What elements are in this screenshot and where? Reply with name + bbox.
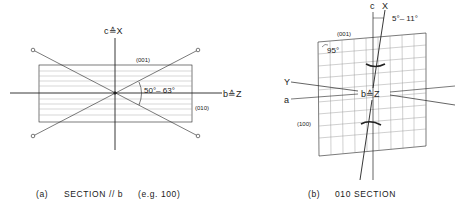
panel-b-y-axis-right [390, 95, 455, 105]
panel-a-drawing [10, 38, 222, 150]
panel-b-caption-text: 010 SECTION [335, 189, 396, 199]
panel-b-grid-angle-label: 95° [327, 46, 339, 55]
panel-a-plane-001-label: (001) [136, 57, 150, 63]
panel-a-endpoint [31, 48, 35, 52]
panel-b-upper-arc [366, 64, 385, 67]
panel-b-tilt-angle-label: 5°– 11° [392, 14, 418, 23]
panel-a-endpoint [196, 134, 200, 138]
panel-b-x-axis-lower [360, 100, 372, 180]
panel-b-plane-100-label: (100) [297, 121, 311, 127]
panel-a-angle-arc [139, 82, 142, 105]
panel-a-endpoint [196, 48, 200, 52]
panel-a-caption-letter: (a) [36, 189, 48, 199]
panel-a-plane-010-label: (010) [195, 105, 209, 111]
panel-b-a-axis-right [390, 86, 455, 92]
panel-b-plane-001-label: (001) [337, 31, 351, 37]
panel-a-caption-example: (e.g. 100) [138, 189, 180, 199]
panel-b-caption-letter: (b) [308, 189, 320, 199]
panel-b-a-axis-left [291, 94, 358, 99]
panel-b-c-label: c [370, 1, 375, 11]
panel-a-caption-text: SECTION // b [64, 189, 123, 199]
panel-a-endpoint [31, 134, 35, 138]
crystal-section-diagram: c≙X b≙Z (001) (010) 50°– 63° (a) SECTION… [0, 0, 456, 210]
panel-a-angle-label: 50°– 63° [144, 86, 175, 95]
panel-b-y-label: Y [284, 77, 290, 87]
panel-b-center-label: b≙Z [361, 89, 380, 99]
panel-b-lower-arc [361, 122, 381, 125]
panel-b-x-axis-upper [373, 10, 385, 88]
panel-b-a-label: a [284, 95, 289, 105]
panel-a-c-axis-label: c≙X [104, 26, 123, 36]
panel-a-b-axis-label: b≙Z [223, 89, 242, 99]
panel-a-origin [114, 92, 117, 95]
panel-b-x-label: X [382, 1, 388, 11]
